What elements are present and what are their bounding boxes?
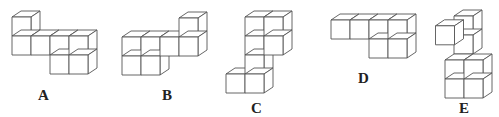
figure-a: [12, 11, 97, 74]
figure-e: [436, 10, 493, 98]
cube-figures-diagram: [0, 0, 499, 117]
label-b: B: [162, 87, 172, 104]
label-d: D: [358, 70, 369, 87]
label-e: E: [459, 100, 469, 117]
label-c: C: [251, 100, 262, 117]
figure-c: [226, 11, 292, 93]
figure-d: [331, 14, 416, 58]
label-a: A: [38, 87, 49, 104]
figure-b: [122, 12, 207, 75]
